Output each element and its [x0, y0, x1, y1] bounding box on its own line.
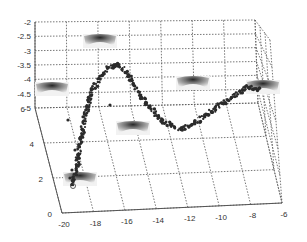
svg-text:-5: -5 [24, 104, 32, 113]
svg-text:-2.5: -2.5 [17, 32, 31, 41]
svg-text:-12: -12 [184, 214, 196, 223]
svg-text:-20: -20 [58, 220, 70, 229]
svg-text:-6: -6 [280, 210, 288, 219]
thumbnail-frame-6 [63, 172, 97, 186]
thumbnail-frame-5 [116, 121, 150, 135]
svg-text:-14: -14 [153, 216, 165, 225]
thumbnail-frame-3 [176, 76, 210, 90]
svg-text:-3: -3 [24, 47, 32, 56]
thumbnail-frame-1 [83, 34, 117, 48]
svg-text:6: 6 [21, 105, 26, 114]
svg-text:-3.5: -3.5 [17, 61, 31, 70]
svg-text:-2: -2 [24, 18, 32, 27]
svg-text:-8: -8 [249, 211, 257, 220]
scatter-3d-plot: -2-2.5-3-3.5-4-4.5-50246-20-18-16-14-12-… [0, 0, 307, 242]
data-points [66, 62, 261, 189]
svg-text:-10: -10 [215, 213, 227, 222]
image-thumbnails [35, 34, 280, 186]
svg-text:-4: -4 [24, 75, 32, 84]
thumbnail-frame-2 [35, 82, 69, 96]
svg-text:-18: -18 [90, 219, 102, 228]
svg-text:2: 2 [39, 175, 44, 184]
svg-text:-16: -16 [121, 217, 133, 226]
svg-text:4: 4 [30, 140, 35, 149]
svg-text:0: 0 [48, 210, 53, 219]
svg-text:-4.5: -4.5 [17, 90, 31, 99]
